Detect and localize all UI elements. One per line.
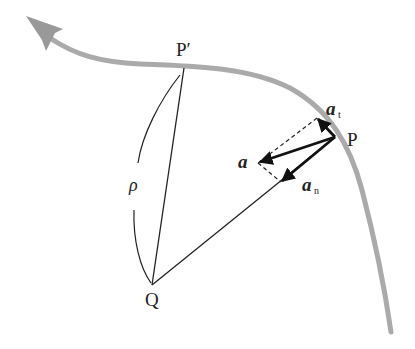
radius-line-q-pprime	[152, 68, 184, 285]
diagram-canvas: P′ P Q ρ a a t a n	[0, 0, 415, 349]
label-rho: ρ	[128, 175, 138, 195]
label-a-t-subscript: t	[338, 109, 341, 120]
rho-arc-upper	[138, 75, 180, 163]
rho-arc-lower	[134, 210, 151, 283]
label-a-n: a	[302, 174, 312, 195]
label-p-prime: P′	[176, 39, 191, 60]
label-a-t: a	[326, 98, 336, 119]
label-p: P	[347, 129, 358, 150]
label-a-n-subscript: n	[314, 185, 319, 196]
label-a: a	[238, 151, 248, 172]
trajectory-path	[26, 16, 391, 332]
dashed-line-a-to-an	[258, 163, 281, 182]
vector-a	[260, 137, 335, 162]
trajectory-arrowhead-icon	[26, 16, 63, 51]
dashed-line-at-to-a	[258, 118, 317, 163]
label-q: Q	[145, 289, 159, 310]
